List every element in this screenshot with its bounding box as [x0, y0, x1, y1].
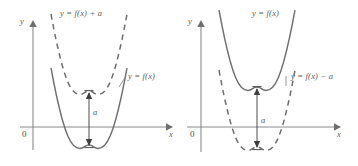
- y-axis-label: y: [20, 17, 24, 26]
- origin-label: 0: [190, 130, 195, 139]
- vertical-shift-figure: y x 0 y = f(x) + a y = f(x) a: [0, 0, 358, 166]
- x-axis: [20, 123, 173, 131]
- base-curve-label: y = f(x): [252, 9, 279, 18]
- shifted-curve-label: y = f(x) + a: [60, 9, 102, 18]
- shifted-curve-label: y = f(x) − a: [291, 72, 333, 81]
- right-panel: y x 0 y = f(x) y = f(x) − a a: [179, 0, 358, 166]
- shift-amount-label: a: [261, 116, 265, 125]
- base-curve-label: y = f(x): [128, 72, 155, 81]
- base-curve-solid: [219, 10, 295, 90]
- left-panel-graph: [0, 0, 179, 166]
- y-axis: [197, 20, 204, 152]
- y-axis-label: y: [188, 17, 192, 26]
- x-axis-label: x: [337, 130, 341, 139]
- origin-label: 0: [22, 130, 27, 139]
- y-axis: [29, 20, 36, 150]
- left-panel: y x 0 y = f(x) + a y = f(x) a: [0, 0, 179, 166]
- shift-amount-label: a: [93, 108, 97, 117]
- shift-arrow-a: [84, 91, 93, 148]
- shifted-curve-dashed: [51, 14, 127, 94]
- right-panel-graph: [179, 0, 358, 166]
- x-axis-label: x: [169, 130, 173, 139]
